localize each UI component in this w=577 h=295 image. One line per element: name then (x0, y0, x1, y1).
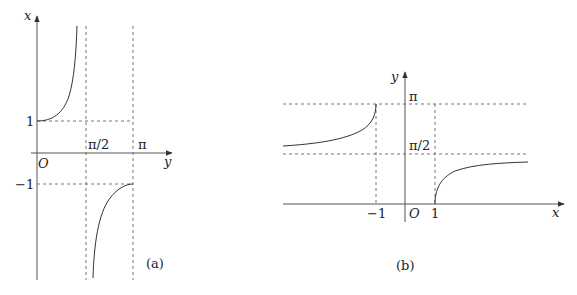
panel-b-horizontal-axis-label: x (552, 205, 560, 220)
panel-a-tick-pi: π (138, 137, 147, 152)
panel-a-tick-one: 1 (26, 114, 34, 129)
panel-b-tick-pi: π (409, 89, 418, 104)
panel-a: x y O 1 −1 π/2 π (a) (15, 8, 172, 280)
panel-b-origin-label: O (409, 206, 420, 221)
panel-b-caption: (b) (396, 258, 414, 273)
panel-b-tick-minus-one: −1 (367, 206, 386, 221)
panel-a-tick-minus-one: −1 (15, 177, 34, 192)
panel-b-vertical-axis-label: y (390, 69, 399, 84)
panel-a-horizontal-axis-label: y (163, 154, 172, 169)
diagram-canvas: x y O 1 −1 π/2 π (a) y x O −1 1 π π/2 (b… (0, 0, 577, 295)
panel-b-tick-pi-half: π/2 (409, 138, 430, 153)
panel-b-tick-one: 1 (431, 206, 439, 221)
panel-a-caption: (a) (146, 256, 164, 271)
panel-a-origin-label: O (38, 156, 49, 171)
panel-a-tick-pi-half: π/2 (88, 137, 109, 152)
panel-b-curve-right (435, 162, 528, 204)
panel-b-curve-left (283, 104, 376, 146)
panel-b: y x O −1 1 π π/2 (b) (283, 69, 564, 273)
panel-a-curve-lower (93, 184, 133, 278)
panel-a-vertical-axis-label: x (24, 8, 32, 23)
panel-a-curve-upper (37, 26, 77, 121)
